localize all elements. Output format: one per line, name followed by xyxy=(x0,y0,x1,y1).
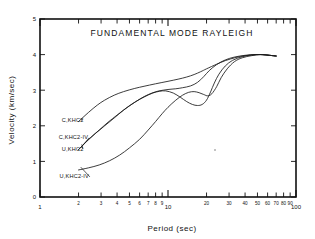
chart-figure: 123456789102030405060708090100 012345 C,… xyxy=(0,0,315,239)
y-tick-label: 3 xyxy=(33,88,37,94)
curve-u-khc2-iv xyxy=(79,55,277,170)
x-tick-label: 60 xyxy=(265,201,271,206)
x-tick-label: 50 xyxy=(255,201,261,206)
curve-u-khc2 xyxy=(79,55,277,150)
y-axis-title: Velocity (km/sec) xyxy=(7,76,16,145)
y-tick-label: 0 xyxy=(33,194,37,200)
x-tick-label: 20 xyxy=(204,201,210,206)
x-tick-label: 8 xyxy=(154,201,157,206)
x-tick-label: 3 xyxy=(100,201,103,206)
series-label: C,KHC2 xyxy=(62,117,84,123)
y-axis-tick-labels: 012345 xyxy=(33,16,37,200)
y-tick-label: 1 xyxy=(33,159,37,165)
x-tick-label: 100 xyxy=(291,204,302,210)
y-tick-label: 4 xyxy=(33,52,37,58)
series-annotations: C,KHC2C,KHC2-IVU,KHC2U,KHC2-IV xyxy=(59,117,90,180)
curve-c-khc2-iv xyxy=(79,55,277,150)
y-tick-label: 5 xyxy=(33,16,37,22)
x-tick-label: 2 xyxy=(77,201,80,206)
x-tick-label: 1 xyxy=(38,204,42,210)
x-tick-label: 7 xyxy=(147,201,150,206)
x-axis-title: Period (sec) xyxy=(147,224,196,233)
x-tick-label: 10 xyxy=(165,204,172,210)
x-axis-tick-labels: 123456789102030405060708090100 xyxy=(38,201,301,210)
page-speck xyxy=(214,149,216,151)
x-tick-label: 30 xyxy=(227,201,233,206)
curve-c-khc2 xyxy=(79,54,277,121)
y-tick-label: 2 xyxy=(33,123,37,129)
series-label: C,KHC2-IV xyxy=(59,134,89,140)
series-label: U,KHC2 xyxy=(62,146,84,152)
dispersion-curve-chart: 123456789102030405060708090100 012345 C,… xyxy=(0,0,315,239)
x-tick-label: 70 xyxy=(274,201,280,206)
x-tick-label: 6 xyxy=(138,201,141,206)
series-label: U,KHC2-IV xyxy=(59,173,89,179)
x-tick-label: 9 xyxy=(161,201,164,206)
x-tick-label: 4 xyxy=(116,201,119,206)
x-tick-label: 80 xyxy=(281,201,287,206)
x-tick-label: 5 xyxy=(128,201,131,206)
chart-title: FUNDAMENTAL MODE RAYLEIGH xyxy=(91,28,254,38)
x-tick-label: 40 xyxy=(243,201,249,206)
data-curves xyxy=(79,54,277,169)
